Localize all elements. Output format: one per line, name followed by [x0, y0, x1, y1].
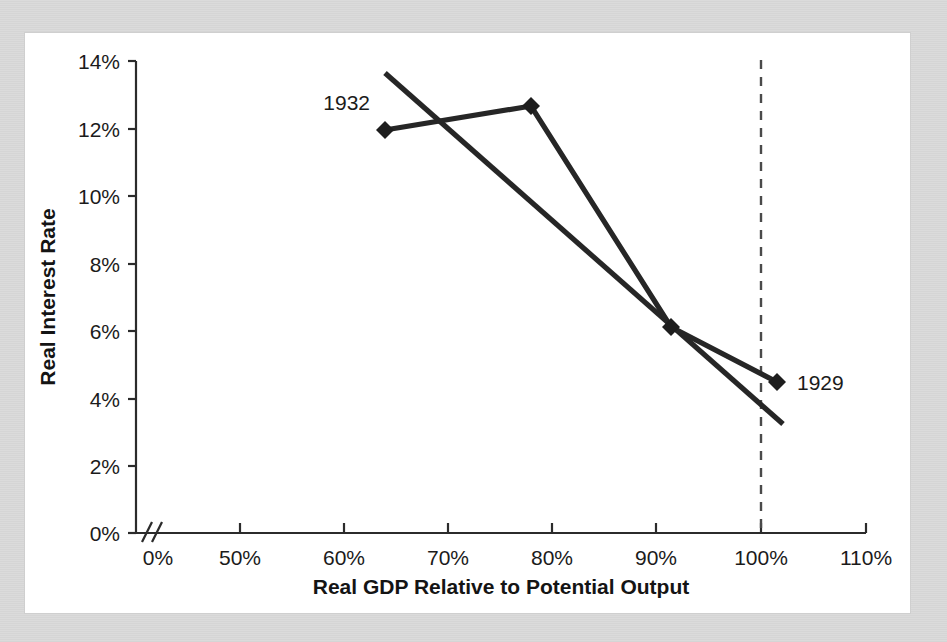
y-tick-label-10: 10% [78, 185, 120, 208]
x-tick-label-110: 110% [840, 546, 892, 569]
chart-panel: 14% 12% 10% 8% 6% 4% 2% 0% 0% 50% 60% 70… [25, 33, 910, 613]
y-tick-label-2: 2% [90, 455, 120, 478]
x-tick-label-50: 50% [219, 546, 261, 569]
x-axis-title: Real GDP Relative to Potential Output [313, 575, 690, 598]
data-point-marker-1929 [768, 373, 786, 391]
annotation-1932: 1932 [323, 91, 370, 114]
x-tick-label-90: 90% [635, 546, 677, 569]
y-tick-label-0: 0% [90, 522, 120, 545]
data-point-marker-1932 [376, 121, 394, 139]
x-tick-label-60: 60% [323, 546, 365, 569]
y-tick-label-4: 4% [90, 388, 120, 411]
x-tick-label-70: 70% [427, 546, 469, 569]
y-axis-ticks [128, 61, 136, 533]
chart-plot-area: 14% 12% 10% 8% 6% 4% 2% 0% 0% 50% 60% 70… [25, 33, 910, 613]
y-tick-label-12: 12% [78, 118, 120, 141]
figure-page: 14% 12% 10% 8% 6% 4% 2% 0% 0% 50% 60% 70… [0, 0, 947, 642]
series-trend-line [385, 73, 783, 424]
x-tick-label-80: 80% [531, 546, 573, 569]
x-tick-label-100: 100% [734, 546, 788, 569]
y-tick-label-8: 8% [90, 253, 120, 276]
y-axis-title: Real Interest Rate [36, 208, 59, 385]
annotation-1929: 1929 [797, 371, 844, 394]
x-axis-ticks [240, 523, 866, 533]
x-tick-label-0: 0% [143, 546, 173, 569]
y-tick-label-6: 6% [90, 320, 120, 343]
y-tick-label-14: 14% [78, 50, 120, 73]
